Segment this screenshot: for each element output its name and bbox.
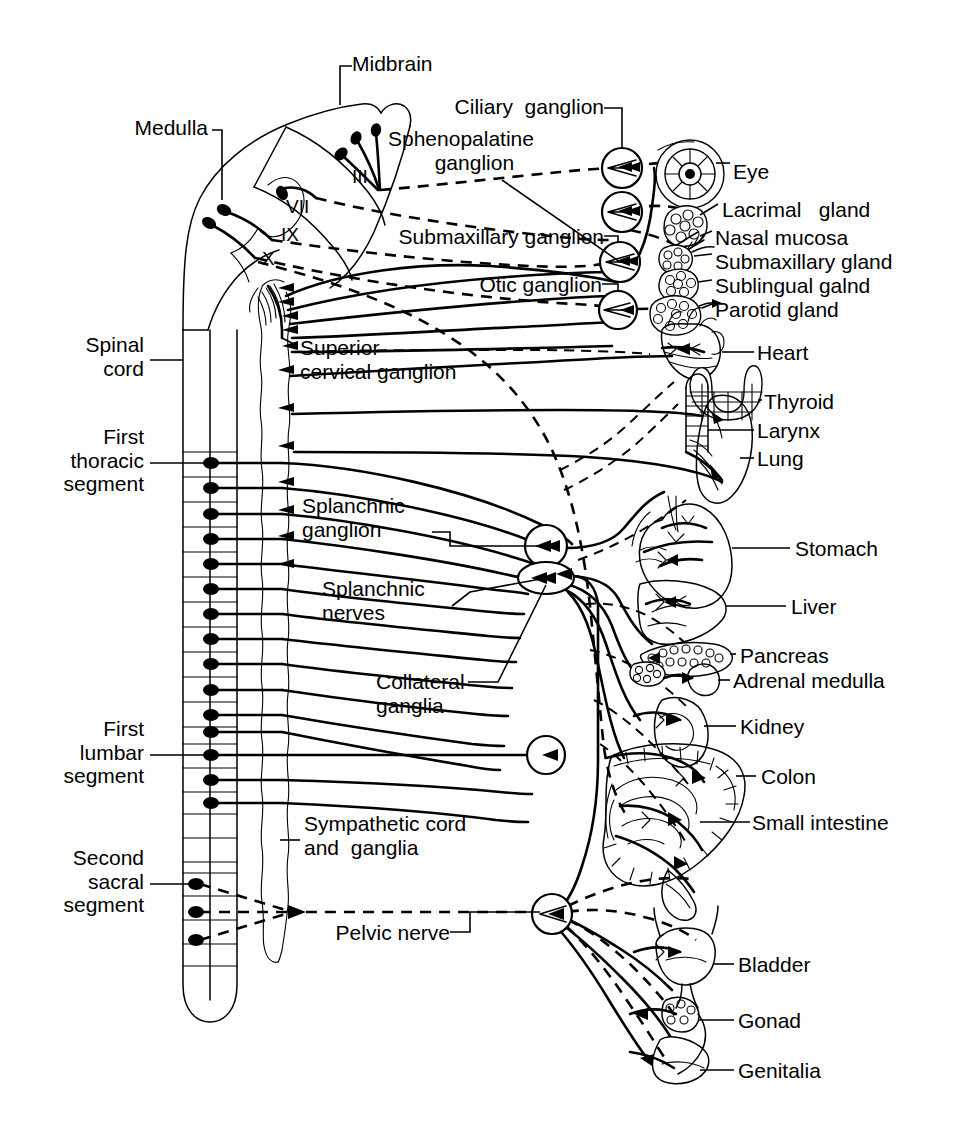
label-parotid-gland: Parotid gland [715,298,839,322]
label-lung: Lung [757,447,804,471]
label-pelvic-nerve: Pelvic nerve [260,921,450,945]
label-spinal-cord: Spinal cord [0,333,144,380]
genitalia-drawing [630,1037,709,1084]
leader-pelvic [450,912,540,932]
stomach-drawing [632,496,732,608]
eye-drawing [656,140,724,208]
spinal-cord-column [183,330,237,1022]
label-superior-cervical-ganglion: Superior cervical ganglion [300,336,456,383]
label-submaxillary-gland: Submaxillary gland [715,250,892,274]
pancreas-drawing [630,642,732,686]
label-thyroid: Thyroid [764,390,834,414]
leader-sublingual [698,280,712,282]
leader-medulla [212,130,222,200]
label-gonad: Gonad [738,1009,801,1033]
label-pancreas: Pancreas [740,644,829,668]
label-cranial-nerve-vii: VII [286,196,309,218]
label-first-lumbar-segment: First lumbar segment [0,717,144,788]
label-splanchnic-nerves: Splanchnic nerves [322,577,425,624]
label-colon: Colon [761,765,816,789]
label-lacrimal-gland: Lacrimal gland [722,198,870,222]
label-genitalia: Genitalia [738,1059,821,1083]
leader-midbrain [340,66,352,105]
leader-otic [602,284,618,291]
leader-ciliary [604,108,622,148]
label-eye: Eye [733,160,769,184]
label-sphenopalatine-ganglion: Sphenopalatine ganglion [388,127,534,174]
intestines-drawing [603,744,745,921]
label-stomach: Stomach [795,537,878,561]
label-heart: Heart [757,341,808,365]
liver-drawing [638,581,726,645]
label-second-sacral-segment: Second sacral segment [0,846,144,917]
diagram-root: .s {fill:none;stroke:#000;stroke-width:2… [0,0,953,1129]
leader-collateral [468,585,546,682]
label-nasal-mucosa: Nasal mucosa [715,226,848,250]
label-medulla: Medulla [0,116,208,140]
label-cranial-nerve-ix: IX [281,224,299,246]
label-sublingual-gland: Sublingual galnd [715,274,870,298]
label-otic-ganglion: Otic ganglion [400,273,602,297]
label-submaxillary-ganglion: Submaxillary ganglion [360,225,604,249]
label-larynx: Larynx [757,419,820,443]
label-ciliary-ganglion: Ciliary ganglion [360,95,604,119]
label-midbrain: Midbrain [352,52,433,76]
label-cranial-nerve-x: X [262,248,275,270]
leader-submaxillary-gl [694,254,712,256]
label-cranial-nerve-iii: III [352,166,368,188]
label-small-intestine: Small intestine [752,811,889,835]
label-kidney: Kidney [740,715,804,739]
bladder-drawing [634,906,718,1008]
label-bladder: Bladder [738,953,810,977]
label-collateral-ganglia: Collateral ganglia [376,670,465,717]
sympathetic-chain [249,280,290,962]
leader-sphenopalatine [502,180,620,262]
label-sympathetic-cord-and-ganglia: Sympathetic cord and ganglia [304,812,466,859]
label-splanchnic-ganglion: Splanchnic ganglion [302,494,405,541]
label-liver: Liver [791,595,837,619]
label-adrenal-medulla: Adrenal medulla [733,669,885,693]
label-first-thoracic-segment: First thoracic segment [0,425,144,496]
